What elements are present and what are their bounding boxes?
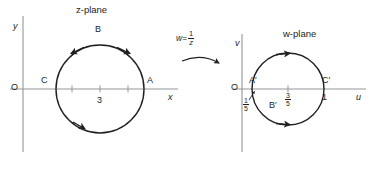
- w-plane-v-axis-label: v: [235, 39, 240, 48]
- z-plane-y-axis-label: y: [13, 22, 18, 31]
- transform-denominator: z: [188, 39, 194, 47]
- z-plane-point-label-B: B: [95, 25, 101, 34]
- w-plane-left-intercept-denominator: 5: [243, 105, 249, 112]
- transform-equation: w=1z: [176, 30, 194, 47]
- w-plane-u-axis-label: u: [356, 93, 361, 102]
- complex-mapping-figure: z-plane y x O 3 B C A w=1z w-plane v u O…: [0, 0, 378, 169]
- w-plane-title: w-plane: [283, 29, 316, 39]
- w-plane-point-label-C-prime: C′: [322, 76, 330, 85]
- w-plane-center-tick-denominator: 5: [285, 100, 291, 107]
- w-plane-point-label-B-prime: B′: [269, 101, 277, 110]
- mapping-arrow: [182, 57, 219, 63]
- z-plane-direction-arrow-upper-left: [71, 48, 84, 54]
- z-plane-origin-label: O: [11, 83, 18, 92]
- w-plane-left-intercept-numerator: 1: [243, 97, 249, 105]
- w-plane-direction-arrow-bottom: [276, 124, 290, 125]
- z-plane-tick-label-3: 3: [97, 96, 102, 105]
- w-plane-origin-label: O: [231, 83, 238, 92]
- w-plane-right-intercept-label: 1: [322, 93, 327, 102]
- z-plane-x-axis-label: x: [168, 93, 173, 102]
- z-plane-direction-arrow-upper-right: [117, 48, 130, 54]
- w-plane-point-label-A-prime: A′: [249, 76, 257, 85]
- w-plane-center-tick-fraction: 3 5: [285, 92, 291, 107]
- w-plane-center-tick-numerator: 3: [285, 92, 291, 100]
- z-plane-point-label-A: A: [147, 76, 153, 85]
- w-plane-group: [233, 34, 366, 152]
- w-plane-left-intercept-fraction: 1 5: [243, 97, 249, 112]
- z-plane-point-label-C: C: [41, 76, 48, 85]
- w-plane-direction-arrow-top: [276, 53, 290, 54]
- transform-fraction: 1z: [188, 30, 194, 47]
- mapping-arrow-group: [182, 57, 219, 63]
- z-plane-title: z-plane: [76, 5, 107, 15]
- transform-equals: =: [182, 33, 187, 43]
